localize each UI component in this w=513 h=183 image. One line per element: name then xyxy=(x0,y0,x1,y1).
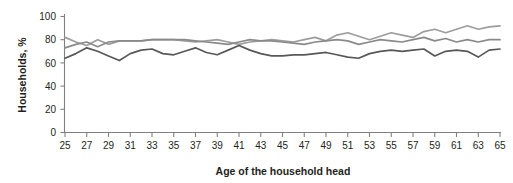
x-tick-label: 39 xyxy=(212,140,224,151)
x-tick-label: 61 xyxy=(451,140,463,151)
x-tick-label: 57 xyxy=(407,140,419,151)
x-tick-label: 65 xyxy=(494,140,506,151)
y-tick-label: 80 xyxy=(45,34,57,45)
series-group xyxy=(65,26,500,61)
x-tick-label: 25 xyxy=(59,140,71,151)
x-tick-label: 27 xyxy=(81,140,93,151)
y-axis-label: Households, % xyxy=(16,37,28,113)
y-tick-label-group: 020406080100 xyxy=(39,11,56,138)
line-chart: Households, % 020406080100 2527293133353… xyxy=(0,0,513,183)
x-tick-label: 37 xyxy=(190,140,202,151)
y-axis-label-group: Households, % xyxy=(16,37,28,113)
series-line-series-dark-gray xyxy=(65,46,500,61)
x-tick-label: 41 xyxy=(233,140,245,151)
chart-canvas: Households, % 020406080100 2527293133353… xyxy=(0,0,513,183)
x-tick-label: 45 xyxy=(277,140,289,151)
y-tick-label: 20 xyxy=(45,104,57,115)
x-tick-label: 47 xyxy=(299,140,311,151)
x-axis-label: Age of the household head xyxy=(216,165,351,177)
series-line-series-mid-gray xyxy=(65,37,500,47)
x-tick-label: 29 xyxy=(103,140,115,151)
x-tick-mark-group xyxy=(65,133,500,138)
x-tick-label: 33 xyxy=(146,140,158,151)
x-tick-label: 35 xyxy=(168,140,180,151)
x-tick-label: 31 xyxy=(125,140,137,151)
x-tick-label: 63 xyxy=(473,140,485,151)
x-tick-label: 51 xyxy=(342,140,354,151)
y-tick-label: 60 xyxy=(45,58,57,69)
x-tick-label: 55 xyxy=(386,140,398,151)
x-tick-label: 43 xyxy=(255,140,267,151)
x-tick-label: 59 xyxy=(429,140,441,151)
x-tick-label: 49 xyxy=(320,140,332,151)
x-tick-label-group: 2527293133353739414345474951535557596163… xyxy=(59,140,506,151)
x-tick-label: 53 xyxy=(364,140,376,151)
y-tick-label: 40 xyxy=(45,81,57,92)
y-tick-label: 100 xyxy=(39,11,56,22)
y-tick-label: 0 xyxy=(50,127,56,138)
